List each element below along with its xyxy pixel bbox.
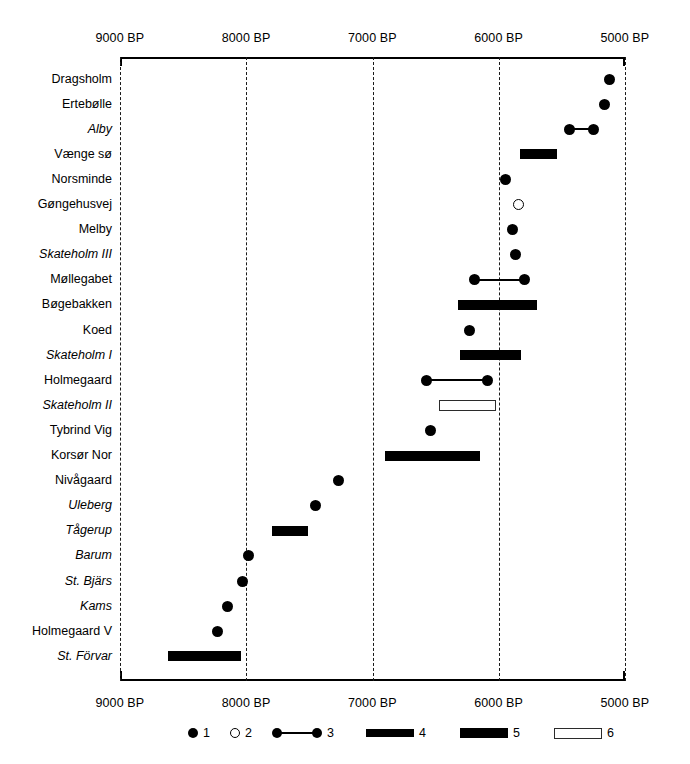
gridline-8000 [246,57,247,681]
site-label-dragsholm: Dragsholm [52,73,112,86]
axis-tick-label-top-6000: 6000 BP [474,31,523,45]
legend-entry-5: 5 [460,722,520,744]
marker-range-line-m-llegabet [475,279,524,281]
marker-range-end-alby-start [564,124,575,135]
site-label-erteb-lle: Ertebølle [62,98,112,111]
marker-point-skateholm-iii [510,249,521,260]
axis-tick-label-bottom-6000: 6000 BP [474,696,523,710]
legend-label-4: 4 [419,726,426,740]
marker-point-norsminde [500,174,511,185]
marker-point-barum [243,550,254,561]
marker-point-holmegaard-v [212,626,223,637]
legend-entry-6: 6 [554,722,614,744]
site-label-skateholm-ii: Skateholm II [43,399,112,412]
marker-bar-t-gerup [272,526,309,536]
site-label-tybrind-vig: Tybrind Vig [50,424,112,437]
site-label-barum: Barum [75,549,112,562]
site-label-st-bj-rs: St. Bjärs [65,575,112,588]
gridline-5000 [625,57,626,681]
legend-entry-1: 1 [188,722,210,744]
marker-point-koed [464,325,475,336]
marker-point-g-ngehusvej [513,199,524,210]
marker-range-end-m-llegabet-end [519,274,530,285]
marker-bar-b-gebakken [458,300,536,310]
legend-dumbbell-dot-left [272,728,282,738]
legend-dumbbell-line [277,732,317,734]
legend-label-1: 1 [203,726,210,740]
axis-tick-label-bottom-8000: 8000 BP [222,696,271,710]
marker-point-uleberg [310,500,321,511]
marker-open-bar-skateholm-ii [439,400,496,411]
legend-open-circle-icon [230,728,240,738]
site-label-alby: Alby [88,123,112,136]
site-label-koed: Koed [83,324,112,337]
site-label-niv-gaard: Nivågaard [55,474,112,487]
site-label-uleberg: Uleberg [68,499,112,512]
marker-point-kams [222,601,233,612]
axis-tick-label-bottom-7000: 7000 BP [348,696,397,710]
marker-bar-kors-r-nor [385,451,480,461]
marker-range-end-holmegaard-end [482,375,493,386]
site-label-skateholm-iii: Skateholm III [39,248,112,261]
axis-tick-label-bottom-5000: 5000 BP [601,696,650,710]
legend: 123456 [0,722,690,748]
axis-tick-label-top-5000: 5000 BP [601,31,650,45]
marker-range-end-m-llegabet-start [469,274,480,285]
legend-label-5: 5 [513,726,520,740]
site-label-kams: Kams [80,600,112,613]
site-label-column: DragsholmErtebølleAlbyVænge søNorsmindeG… [0,57,112,681]
site-label-holmegaard-v: Holmegaard V [32,625,112,638]
site-label-m-llegabet: Møllegabet [50,273,112,286]
site-label-g-ngehusvej: Gøngehusvej [38,198,112,211]
axis-tick-label-top-9000: 9000 BP [96,31,145,45]
marker-point-tybrind-vig [425,425,436,436]
legend-entry-2: 2 [230,722,252,744]
site-label-kors-r-nor: Korsør Nor [51,449,112,462]
site-label-skateholm-i: Skateholm I [46,349,112,362]
legend-filled-bar-thick-icon [460,728,508,738]
legend-label-3: 3 [327,726,334,740]
marker-point-st-bj-rs [237,576,248,587]
marker-range-line-holmegaard [427,379,488,381]
site-label-melby: Melby [79,223,112,236]
gridline-9000 [120,57,121,681]
marker-bar-skateholm-i [460,350,522,360]
chronology-chart: 9000 BP8000 BP7000 BP6000 BP5000 BP Drag… [0,0,690,764]
axis-tick-label-top-7000: 7000 BP [348,31,397,45]
site-label-norsminde: Norsminde [52,173,112,186]
legend-filled-bar-thin-icon [366,729,414,737]
legend-label-2: 2 [245,726,252,740]
site-label-v-nge-s-: Vænge sø [54,148,112,161]
legend-entry-3: 3 [272,722,334,744]
marker-bar-st-f-rvar [168,651,241,661]
legend-open-bar-icon [554,728,602,739]
marker-point-dragsholm [604,74,615,85]
marker-point-niv-gaard [333,475,344,486]
marker-range-end-holmegaard-start [421,375,432,386]
site-label-st-f-rvar: St. Förvar [57,650,112,663]
marker-point-melby [507,224,518,235]
legend-filled-circle-icon [188,728,198,738]
legend-dumbbell-icon [272,728,322,738]
legend-dumbbell-dot-right [312,728,322,738]
marker-point-erteb-lle [599,99,610,110]
axis-tick-label-bottom-9000: 9000 BP [96,696,145,710]
gridline-7000 [373,57,374,681]
site-label-holmegaard: Holmegaard [44,374,112,387]
axis-tick-label-top-8000: 8000 BP [222,31,271,45]
site-label-b-gebakken: Bøgebakken [42,298,112,311]
legend-entry-4: 4 [366,722,426,744]
gridline-6000 [499,57,500,681]
plot-area [120,57,625,681]
legend-label-6: 6 [607,726,614,740]
marker-bar-v-nge-s- [520,149,557,159]
site-label-t-gerup: Tågerup [65,524,112,537]
marker-range-end-alby-end [588,124,599,135]
